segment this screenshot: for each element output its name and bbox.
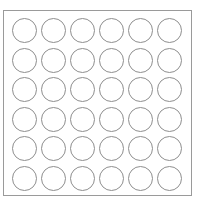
grid-circle-r5-c5 xyxy=(128,136,153,161)
grid-circle-r4-c5 xyxy=(128,107,153,132)
circle-grid xyxy=(12,18,182,191)
grid-circle-r3-c4 xyxy=(99,77,124,102)
grid-circle-r1-c2 xyxy=(41,18,66,43)
grid-circle-r2-c5 xyxy=(128,48,153,73)
grid-circle-r1-c1 xyxy=(12,18,37,43)
grid-circle-r4-c1 xyxy=(12,107,37,132)
grid-circle-r1-c4 xyxy=(99,18,124,43)
grid-circle-r3-c1 xyxy=(12,77,37,102)
grid-circle-r6-c3 xyxy=(70,166,95,191)
grid-circle-r5-c2 xyxy=(41,136,66,161)
grid-frame xyxy=(3,10,192,196)
grid-circle-r4-c2 xyxy=(41,107,66,132)
grid-circle-r4-c3 xyxy=(70,107,95,132)
grid-circle-r6-c5 xyxy=(128,166,153,191)
grid-circle-r5-c6 xyxy=(157,136,182,161)
grid-circle-r5-c4 xyxy=(99,136,124,161)
grid-circle-r2-c4 xyxy=(99,48,124,73)
grid-circle-r1-c5 xyxy=(128,18,153,43)
grid-circle-r5-c3 xyxy=(70,136,95,161)
grid-circle-r3-c3 xyxy=(70,77,95,102)
grid-circle-r6-c2 xyxy=(41,166,66,191)
grid-circle-r2-c3 xyxy=(70,48,95,73)
grid-circle-r1-c6 xyxy=(157,18,182,43)
grid-circle-r2-c2 xyxy=(41,48,66,73)
grid-circle-r6-c4 xyxy=(99,166,124,191)
grid-circle-r3-c6 xyxy=(157,77,182,102)
grid-circle-r3-c5 xyxy=(128,77,153,102)
grid-circle-r4-c6 xyxy=(157,107,182,132)
grid-circle-r6-c6 xyxy=(157,166,182,191)
grid-circle-r3-c2 xyxy=(41,77,66,102)
grid-circle-r6-c1 xyxy=(12,166,37,191)
grid-circle-r1-c3 xyxy=(70,18,95,43)
grid-circle-r2-c1 xyxy=(12,48,37,73)
grid-circle-r4-c4 xyxy=(99,107,124,132)
grid-circle-r5-c1 xyxy=(12,136,37,161)
grid-circle-r2-c6 xyxy=(157,48,182,73)
